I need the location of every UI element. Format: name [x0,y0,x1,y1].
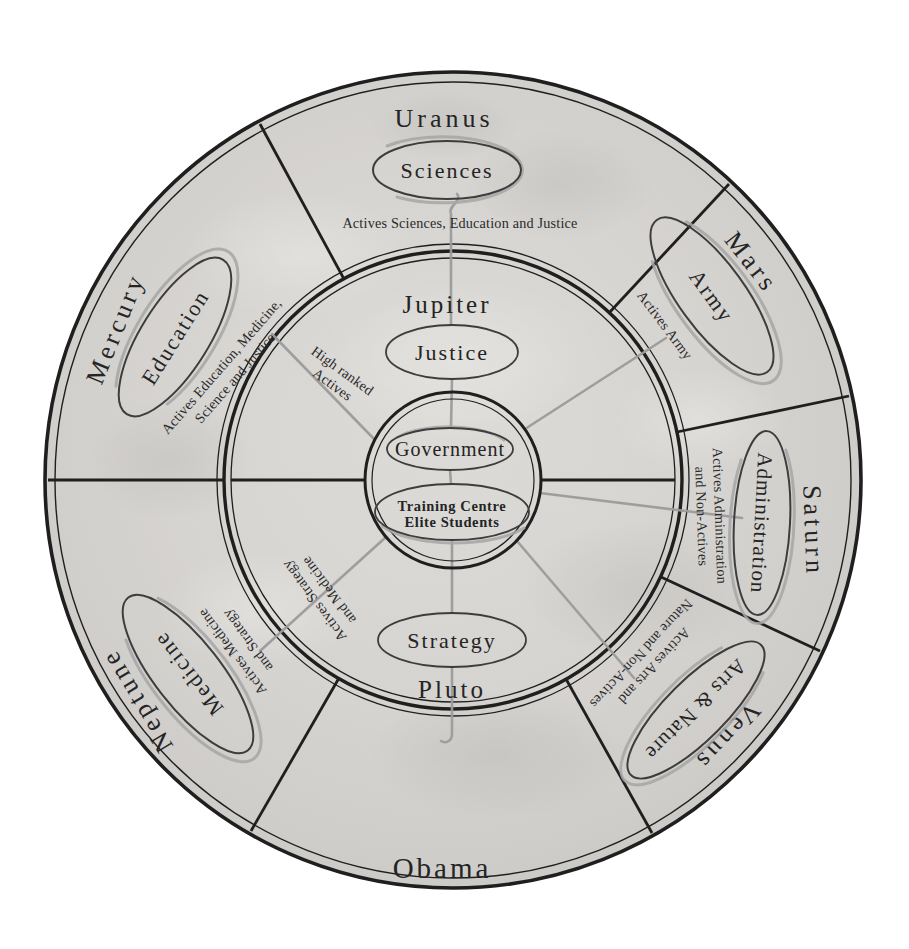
uranus-label: Uranus [394,104,493,133]
justice-label: Justice [415,340,489,365]
society-structure-diagram: Government Training Centre Elite Student… [0,0,909,949]
strategy-label: Strategy [407,628,496,653]
saturn-label: Saturn [797,485,829,578]
connector-justice-government [451,379,452,427]
connector-government-training [450,470,451,484]
sciences-label: Sciences [401,158,494,183]
uranus-note: Actives Sciences, Education and Justice [342,215,577,231]
pluto-label: Pluto [418,676,486,703]
government-label: Government [395,438,505,460]
training-label-line2: Elite Students [404,514,499,530]
texture-blotch [370,690,630,820]
jupiter-label: Jupiter [402,291,491,318]
obama-label: Obama [393,852,492,884]
training-label-line1: Training Centre [398,498,507,514]
scanned-figure-page: Government Training Centre Elite Student… [0,0,909,949]
